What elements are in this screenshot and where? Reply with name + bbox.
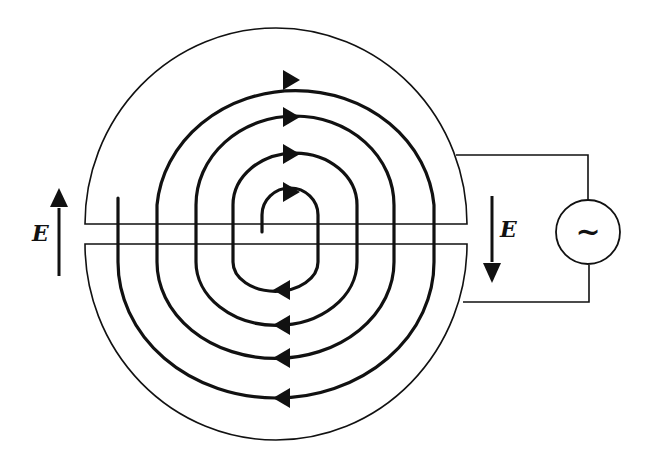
field-arrow-right: [483, 196, 501, 283]
arrow-up-icon: [50, 188, 68, 207]
arrow-left-icon: [273, 280, 290, 300]
cyclotron-diagram: ~ E E: [0, 0, 653, 463]
arrow-right-icon: [283, 70, 300, 90]
arrow-right-icon: [283, 144, 300, 164]
arrow-right-icon: [283, 182, 300, 202]
arrow-left-icon: [273, 315, 290, 335]
field-arrow-left: [50, 188, 68, 276]
ac-source-symbol: ~: [575, 214, 600, 249]
upper-dee: [85, 28, 467, 224]
arrow-left-icon: [273, 388, 290, 408]
field-label-left: E: [31, 220, 50, 246]
lower-dee: [85, 244, 467, 440]
arrow-down-icon: [483, 263, 501, 283]
arrow-left-icon: [273, 348, 290, 368]
field-label-right: E: [499, 216, 518, 242]
arrow-right-icon: [283, 107, 300, 127]
